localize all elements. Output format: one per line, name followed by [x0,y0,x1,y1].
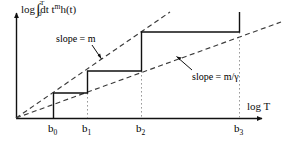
y-axis-label-function: h(t) [60,3,76,15]
x-tick-b1-subscript: 1 [88,128,92,137]
figure-canvas: log∫T0dt tmh(t) log T b0 b1 b2 b3 slope … [0,0,284,145]
x-tick-label-b1: b1 [82,122,91,137]
slope-m-line [16,12,170,118]
x-axis-label: log T [247,101,270,112]
staircase-polyline [54,12,240,118]
annotation-slope-m: slope = m [56,33,96,44]
integral-lower-limit: 0 [38,11,42,18]
integral-sign-icon: ∫T0 [36,3,40,16]
staircase-curve [54,12,240,118]
integral-upper-limit: T [40,0,44,7]
x-tick-label-b3: b3 [234,122,243,137]
x-tick-b2-subscript: 2 [142,128,146,137]
x-tick-b0-subscript: 0 [54,128,58,137]
x-tick-label-b2: b2 [136,122,145,137]
y-axis-label: log∫T0dt tmh(t) [21,3,76,16]
annotation-slope-m-over-gamma: slope = m/γ [192,71,239,82]
x-tick-label-b0: b0 [48,122,57,137]
x-tick-b3-subscript: 3 [240,128,244,137]
envelope-group [16,12,281,118]
y-axis-label-log: log [21,3,35,15]
